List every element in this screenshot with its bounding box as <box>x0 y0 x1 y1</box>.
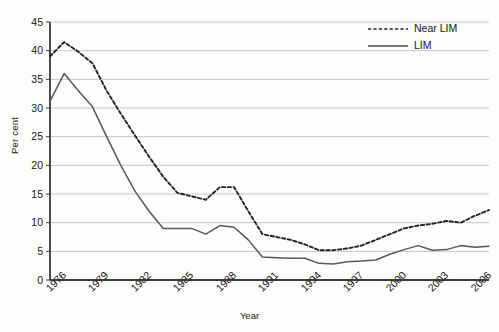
legend-item-lim: LIM <box>368 37 457 54</box>
chart-legend: Near LIM LIM <box>368 20 457 54</box>
legend-swatch-solid-icon <box>368 41 408 51</box>
line-chart: Per cent Year 051015202530354045 1976197… <box>0 0 499 332</box>
legend-label-lim: LIM <box>414 40 432 51</box>
legend-item-near-lim: Near LIM <box>368 20 457 37</box>
legend-label-near-lim: Near LIM <box>414 23 457 34</box>
legend-swatch-dashed-icon <box>368 24 408 34</box>
